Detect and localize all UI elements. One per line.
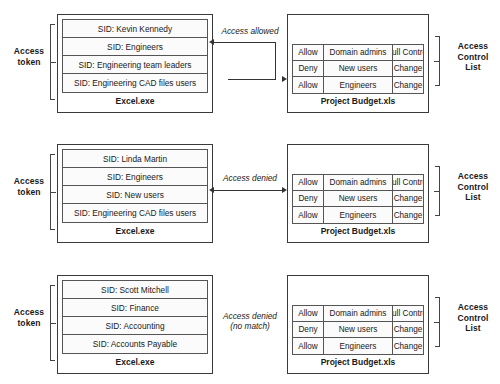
acl-label-row-2: AccessControlList — [450, 171, 496, 203]
ace-row: Allow Domain admins Full Control — [293, 45, 423, 61]
connector-segment-row-2 — [214, 190, 282, 191]
sid-row: SID: Scott Mitchell — [63, 281, 207, 299]
connector-segment-row-1 — [214, 42, 276, 43]
diagram-canvas: Accesstoken SID: Kevin Kennedy SID: Engi… — [0, 0, 500, 384]
access-check-row-1: Accesstoken SID: Kevin Kennedy SID: Engi… — [0, 10, 500, 126]
connector-segment-row-1 — [228, 79, 276, 80]
acl-box-row-2: Allow Domain admins Full Control Deny Ne… — [287, 144, 429, 243]
acl-box-row-3: Allow Domain admins Full Control Deny Ne… — [287, 275, 429, 374]
ace-type: Allow — [293, 207, 324, 223]
sid-row: SID: Linda Martin — [63, 150, 207, 168]
ace-permission: Change — [393, 322, 423, 337]
acl-label-row-1: AccessControlList — [450, 41, 496, 73]
access-token-box-row-1: SID: Kevin Kennedy SID: Engineers SID: E… — [57, 14, 213, 113]
ace-type: Allow — [293, 45, 324, 60]
sid-row: SID: Engineering CAD files users — [63, 204, 207, 222]
sid-table-row-1: SID: Kevin Kennedy SID: Engineers SID: E… — [62, 19, 208, 93]
access-check-row-2: Accesstoken SID: Linda Martin SID: Engin… — [0, 140, 500, 256]
ace-type: Deny — [293, 322, 324, 337]
sid-row: SID: New users — [63, 186, 207, 204]
ace-row: Allow Engineers Change — [293, 77, 423, 93]
ace-trustee: Engineers — [324, 77, 393, 93]
ace-type: Deny — [293, 191, 324, 206]
sid-row: SID: Engineers — [63, 168, 207, 186]
connector-segment-row-1 — [275, 42, 276, 79]
acl-box-row-1: Allow Domain admins Full Control Deny Ne… — [287, 14, 429, 113]
ace-trustee: Domain admins — [324, 175, 393, 190]
sid-row: SID: Engineering team leaders — [63, 56, 207, 74]
sid-table-row-3: SID: Scott Mitchell SID: Finance SID: Ac… — [62, 280, 208, 354]
ace-trustee: New users — [324, 191, 393, 206]
connector-label-row-3: Access denied (no match) — [205, 311, 295, 331]
process-name-row-2: Excel.exe — [58, 226, 212, 236]
access-token-box-row-3: SID: Scott Mitchell SID: Finance SID: Ac… — [57, 275, 213, 374]
ace-permission: Change — [393, 77, 423, 93]
sid-row: SID: Engineering CAD files users — [63, 74, 207, 92]
sid-row: SID: Kevin Kennedy — [63, 20, 207, 38]
sid-table-row-2: SID: Linda Martin SID: Engineers SID: Ne… — [62, 149, 208, 223]
file-name-row-2: Project Budget.xls — [288, 226, 428, 236]
ace-type: Deny — [293, 61, 324, 76]
access-token-label-row-1: Accesstoken — [8, 46, 50, 67]
acl-bracket-row-3 — [432, 297, 440, 347]
ace-type: Allow — [293, 338, 324, 354]
ace-row: Allow Engineers Change — [293, 207, 423, 223]
file-name-row-3: Project Budget.xls — [288, 357, 428, 367]
access-token-label-row-2: Accesstoken — [8, 176, 50, 197]
ace-trustee: Engineers — [324, 207, 393, 223]
process-name-row-1: Excel.exe — [58, 96, 212, 106]
ace-permission: Full Control — [393, 45, 423, 60]
ace-table-row-3: Allow Domain admins Full Control Deny Ne… — [292, 305, 424, 355]
ace-row: Deny New users Change — [293, 61, 423, 77]
ace-row: Allow Domain admins Full Control — [293, 306, 423, 322]
ace-permission: Full Control — [393, 175, 423, 190]
ace-type: Allow — [293, 77, 324, 93]
sid-row: SID: Accounts Payable — [63, 335, 207, 353]
ace-trustee: New users — [324, 61, 393, 76]
ace-trustee: Domain admins — [324, 45, 393, 60]
sid-row: SID: Engineers — [63, 38, 207, 56]
connector-label-row-1: Access allowed — [205, 26, 295, 36]
acl-bracket-row-2 — [432, 166, 440, 216]
connector-label-row-2: Access denied — [205, 173, 295, 183]
ace-table-row-2: Allow Domain admins Full Control Deny Ne… — [292, 174, 424, 224]
ace-permission: Change — [393, 207, 423, 223]
acl-label-row-3: AccessControlList — [450, 302, 496, 334]
ace-row: Allow Domain admins Full Control — [293, 175, 423, 191]
ace-permission: Change — [393, 61, 423, 76]
ace-permission: Change — [393, 338, 423, 354]
ace-permission: Change — [393, 191, 423, 206]
sid-row: SID: Accounting — [63, 317, 207, 335]
ace-permission: Full Control — [393, 306, 423, 321]
ace-row: Allow Engineers Change — [293, 338, 423, 354]
access-token-label-row-3: Accesstoken — [8, 307, 50, 328]
ace-type: Allow — [293, 175, 324, 190]
process-name-row-3: Excel.exe — [58, 357, 212, 367]
ace-table-row-1: Allow Domain admins Full Control Deny Ne… — [292, 44, 424, 94]
access-check-row-3: Accesstoken SID: Scott Mitchell SID: Fin… — [0, 271, 500, 384]
acl-bracket-row-1 — [432, 36, 440, 86]
ace-trustee: New users — [324, 322, 393, 337]
file-name-row-1: Project Budget.xls — [288, 96, 428, 106]
ace-trustee: Domain admins — [324, 306, 393, 321]
ace-row: Deny New users Change — [293, 191, 423, 207]
ace-row: Deny New users Change — [293, 322, 423, 338]
sid-row: SID: Finance — [63, 299, 207, 317]
ace-type: Allow — [293, 306, 324, 321]
access-token-box-row-2: SID: Linda Martin SID: Engineers SID: Ne… — [57, 144, 213, 243]
ace-trustee: Engineers — [324, 338, 393, 354]
